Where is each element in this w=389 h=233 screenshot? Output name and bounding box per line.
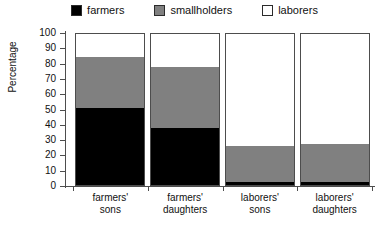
legend-item-smallholders: smallholders (154, 5, 232, 16)
y-tick-label: 60 (22, 89, 56, 99)
bar-segment-laborers[interactable] (301, 34, 369, 144)
plot-area (73, 33, 372, 186)
bar-segment-laborers[interactable] (151, 34, 219, 67)
bar-0[interactable] (75, 33, 145, 186)
bar-segment-smallholders[interactable] (226, 146, 294, 182)
y-tick-label: 20 (22, 150, 56, 160)
bar-segment-smallholders[interactable] (151, 67, 219, 127)
y-tick-label: 0 (22, 181, 56, 191)
y-tick (60, 186, 66, 187)
x-label-line: sons (223, 204, 298, 216)
x-label-2: laborers'sons (223, 192, 298, 216)
x-tick (372, 186, 373, 191)
x-label-3: laborers'daughters (297, 192, 372, 216)
legend-item-laborers: laborers (262, 5, 318, 16)
y-tick (60, 125, 66, 126)
y-tick (60, 94, 66, 95)
x-tick (223, 186, 224, 191)
y-tick-label: 10 (22, 166, 56, 176)
x-label-line: sons (73, 204, 148, 216)
bar-3[interactable] (300, 33, 370, 186)
legend-label-laborers: laborers (278, 5, 318, 16)
bar-segment-smallholders[interactable] (301, 144, 369, 182)
bar-segment-farmers[interactable] (226, 182, 294, 185)
legend-swatch-smallholders (154, 5, 165, 16)
x-label-1: farmers'daughters (148, 192, 223, 216)
x-axis-labels: farmers'sonsfarmers'daughterslaborers'so… (73, 192, 372, 228)
x-label-line: laborers' (297, 192, 372, 204)
x-axis-line (65, 186, 375, 187)
bar-segment-laborers[interactable] (226, 34, 294, 146)
bar-2[interactable] (225, 33, 295, 186)
y-tick (60, 140, 66, 141)
y-tick-label: 100 (22, 28, 56, 38)
x-tick (148, 186, 149, 191)
legend-label-farmers: farmers (87, 5, 124, 16)
y-tick (60, 155, 66, 156)
legend-swatch-farmers (71, 5, 82, 16)
y-tick-label: 70 (22, 74, 56, 84)
y-tick-label: 30 (22, 135, 56, 145)
legend-swatch-laborers (262, 5, 273, 16)
bar-segment-farmers[interactable] (301, 182, 369, 185)
legend-item-farmers: farmers (71, 5, 124, 16)
x-label-line: daughters (148, 204, 223, 216)
bar-segment-laborers[interactable] (76, 34, 144, 57)
x-label-line: laborers' (223, 192, 298, 204)
y-tick (60, 110, 66, 111)
bar-segment-farmers[interactable] (76, 108, 144, 185)
y-tick-label: 50 (22, 105, 56, 115)
legend-label-smallholders: smallholders (170, 5, 232, 16)
y-tick-label: 90 (22, 43, 56, 53)
bar-1[interactable] (150, 33, 220, 186)
bar-segment-farmers[interactable] (151, 128, 219, 185)
y-tick (60, 171, 66, 172)
y-axis-title: Percentage (8, 12, 18, 122)
y-tick-label: 80 (22, 59, 56, 69)
x-label-0: farmers'sons (73, 192, 148, 216)
x-label-line: daughters (297, 204, 372, 216)
bar-segment-smallholders[interactable] (76, 57, 144, 108)
y-tick (60, 64, 66, 65)
y-tick (60, 79, 66, 80)
y-tick-label: 40 (22, 120, 56, 130)
x-tick (73, 186, 74, 191)
x-tick (297, 186, 298, 191)
x-label-line: farmers' (148, 192, 223, 204)
y-tick (60, 48, 66, 49)
x-label-line: farmers' (73, 192, 148, 204)
stacked-bar-chart: farmers smallholders laborers Percentage… (0, 0, 389, 233)
y-tick (60, 33, 66, 34)
chart-legend: farmers smallholders laborers (0, 5, 389, 16)
